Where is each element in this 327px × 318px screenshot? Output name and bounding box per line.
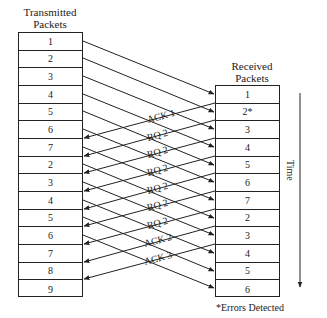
response-label: RQ 2 — [146, 215, 170, 231]
data-arrows — [83, 41, 214, 288]
response-label: RQ 2 — [146, 162, 170, 178]
response-label: RQ 2 — [146, 144, 170, 160]
response-label: RQ 2 — [146, 127, 170, 143]
response-label: ACK 1 — [146, 107, 176, 125]
sliding-window-diagram: Transmitted Packets 1 2 3 4 5 6 7 2 3 4 … — [0, 0, 327, 318]
arrows-layer: ACK 1 RQ 2 RQ 2 RQ 2 RQ 2 RQ 2 RQ 2 ACK … — [0, 0, 327, 318]
errors-footnote: *Errors Detected — [216, 302, 284, 313]
response-label: RQ 2 — [146, 180, 170, 196]
response-labels: ACK 1 RQ 2 RQ 2 RQ 2 RQ 2 RQ 2 RQ 2 ACK … — [143, 107, 176, 267]
response-label: ACK 2 — [143, 231, 173, 249]
response-label: RQ 2 — [146, 197, 170, 213]
data-arrow-icon — [83, 58, 214, 112]
time-label: Time — [285, 160, 296, 181]
response-label: ACK 3 — [143, 249, 173, 267]
data-arrow-icon — [83, 41, 214, 94]
